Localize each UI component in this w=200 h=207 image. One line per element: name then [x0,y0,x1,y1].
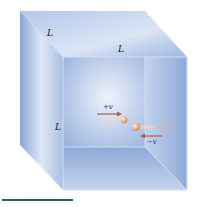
edge-label-depth: L [47,29,53,38]
edge-label-height: L [55,123,61,132]
particle-rebounding [132,123,140,131]
edge-label-width: L [118,45,124,54]
velocity-label-minus: −v [147,139,157,146]
cube-drawing [0,0,200,207]
cube-diagram: L L L +v −v [0,0,200,207]
velocity-label-plus: +v [103,104,113,111]
back-face [63,57,145,147]
caption-rule [2,199,73,201]
particle-incoming [121,117,128,124]
